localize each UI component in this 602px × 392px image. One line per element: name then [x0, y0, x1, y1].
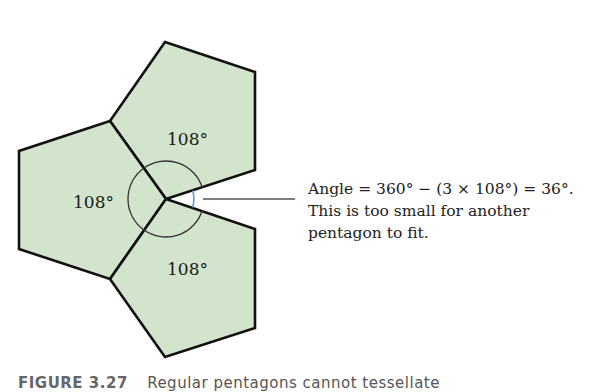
figure-number: FIGURE 3.27	[18, 374, 128, 392]
annotation-line-3: pentagon to fit.	[308, 222, 574, 244]
angle-label-left: 108°	[73, 192, 114, 212]
caption-text: Regular pentagons cannot tessellate	[147, 374, 440, 392]
angle-label-bottom: 108°	[167, 259, 208, 279]
angle-label-top: 108°	[167, 129, 208, 149]
figure-caption: FIGURE 3.27 Regular pentagons cannot tes…	[18, 374, 440, 392]
angle-annotation: Angle = 360° − (3 × 108°) = 36°. This is…	[308, 178, 574, 244]
annotation-line-2: This is too small for another	[308, 200, 574, 222]
annotation-line-1: Angle = 360° − (3 × 108°) = 36°.	[308, 178, 574, 200]
gap-angle-arc	[193, 191, 194, 208]
